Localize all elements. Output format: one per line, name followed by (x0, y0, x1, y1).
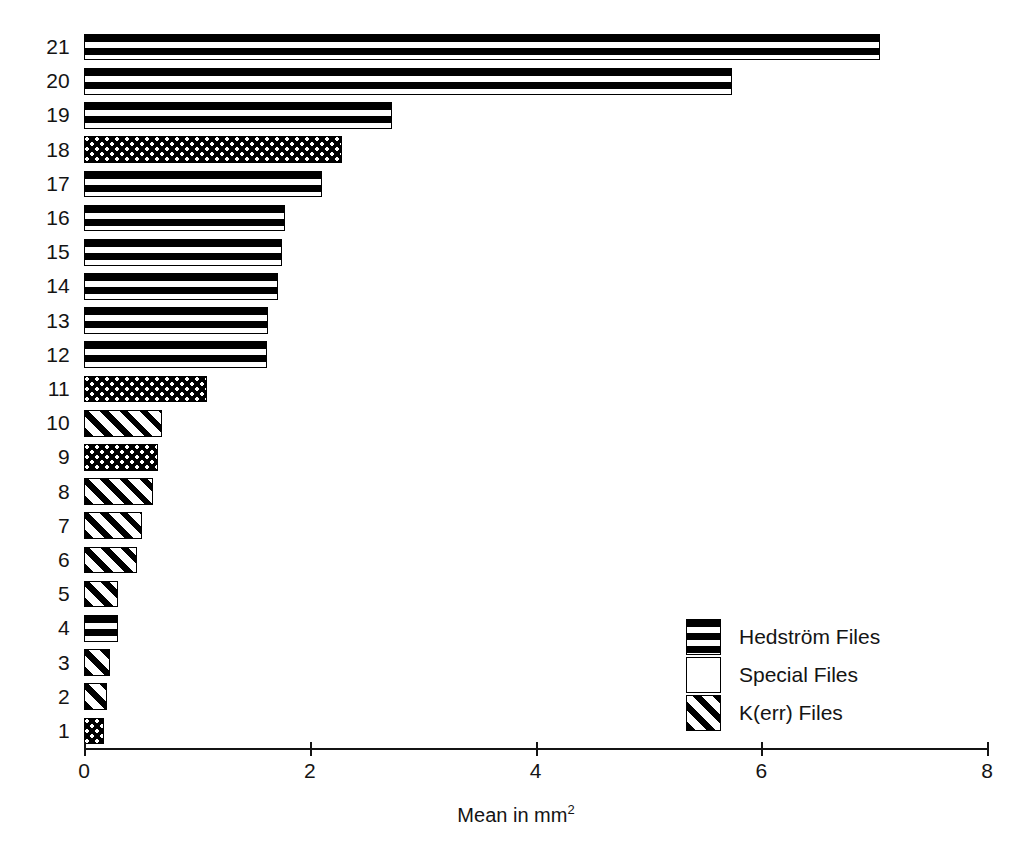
legend-swatch-special (686, 657, 721, 693)
bar-row (84, 341, 987, 368)
y-tick-label-11: 11 (12, 378, 70, 399)
bar-20[interactable] (84, 68, 732, 95)
bar-17[interactable] (84, 171, 322, 198)
y-tick-label-19: 19 (12, 104, 70, 125)
bar-row (84, 547, 987, 574)
x-tick-label-6: 6 (731, 760, 791, 781)
bar-3[interactable] (84, 649, 110, 676)
x-tick-label-0: 0 (54, 760, 114, 781)
bar-row (84, 512, 987, 539)
bar-5[interactable] (84, 581, 118, 608)
y-tick-label-9: 9 (12, 446, 70, 467)
y-tick-label-6: 6 (12, 549, 70, 570)
x-axis-title: Mean in mm2 (0, 802, 1032, 827)
y-tick-label-16: 16 (12, 207, 70, 228)
x-tick-label-4: 4 (506, 760, 566, 781)
y-tick-label-3: 3 (12, 652, 70, 673)
bar-8[interactable] (84, 478, 153, 505)
bar-chart: 212019181716151413121110987654321 02468 … (0, 0, 1032, 858)
bar-row (84, 205, 987, 232)
y-tick-label-17: 17 (12, 173, 70, 194)
bar-row (84, 410, 987, 437)
bar-9[interactable] (84, 444, 158, 471)
bar-19[interactable] (84, 102, 392, 129)
bar-1[interactable] (84, 718, 104, 745)
legend-label-kerr: K(err) Files (739, 701, 843, 725)
x-tick-mark-8 (987, 742, 989, 756)
bar-6[interactable] (84, 547, 137, 574)
bar-row (84, 307, 987, 334)
bar-row (84, 581, 987, 608)
bar-row (84, 34, 987, 61)
y-tick-label-10: 10 (12, 412, 70, 433)
bar-row (84, 171, 987, 198)
y-tick-label-5: 5 (12, 583, 70, 604)
y-tick-label-7: 7 (12, 515, 70, 536)
y-tick-label-14: 14 (12, 275, 70, 296)
y-tick-label-2: 2 (12, 686, 70, 707)
bar-4[interactable] (84, 615, 118, 642)
bar-7[interactable] (84, 512, 142, 539)
y-tick-label-4: 4 (12, 617, 70, 638)
y-axis: 212019181716151413121110987654321 (12, 30, 70, 748)
bar-16[interactable] (84, 205, 285, 232)
x-tick-label-8: 8 (957, 760, 1017, 781)
bar-row (84, 444, 987, 471)
bar-13[interactable] (84, 307, 268, 334)
x-tick-mark-2 (310, 742, 312, 756)
x-tick-mark-6 (761, 742, 763, 756)
x-tick-mark-0 (84, 742, 86, 756)
bar-row (84, 136, 987, 163)
y-tick-label-21: 21 (12, 36, 70, 57)
bar-11[interactable] (84, 376, 207, 403)
bar-12[interactable] (84, 341, 267, 368)
legend-swatch-hedstrom (686, 619, 721, 655)
chart-legend: Hedström FilesSpecial FilesK(err) Files (686, 618, 986, 732)
y-tick-label-13: 13 (12, 310, 70, 331)
bar-21[interactable] (84, 34, 880, 61)
bar-row (84, 478, 987, 505)
y-tick-label-15: 15 (12, 241, 70, 262)
bar-15[interactable] (84, 239, 282, 266)
bar-14[interactable] (84, 273, 278, 300)
bar-row (84, 273, 987, 300)
legend-item-hedstrom[interactable]: Hedström Files (686, 618, 986, 656)
bar-row (84, 239, 987, 266)
y-tick-label-12: 12 (12, 344, 70, 365)
y-tick-label-8: 8 (12, 481, 70, 502)
bar-2[interactable] (84, 683, 107, 710)
x-tick-label-2: 2 (280, 760, 340, 781)
bar-10[interactable] (84, 410, 162, 437)
bar-row (84, 376, 987, 403)
y-tick-label-1: 1 (12, 720, 70, 741)
bar-18[interactable] (84, 136, 342, 163)
x-tick-mark-4 (536, 742, 538, 756)
bar-row (84, 68, 987, 95)
y-tick-label-18: 18 (12, 139, 70, 160)
legend-swatch-kerr (686, 695, 721, 731)
legend-item-kerr[interactable]: K(err) Files (686, 694, 986, 732)
legend-label-special: Special Files (739, 663, 858, 687)
legend-label-hedstrom: Hedström Files (739, 625, 880, 649)
bar-row (84, 102, 987, 129)
y-tick-label-20: 20 (12, 70, 70, 91)
legend-item-special[interactable]: Special Files (686, 656, 986, 694)
